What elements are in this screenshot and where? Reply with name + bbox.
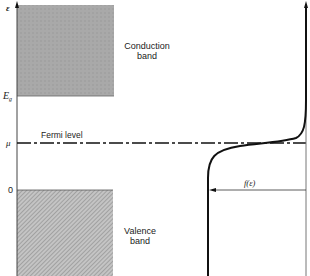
valence-band-label-line1: Valence xyxy=(124,226,156,236)
fermi-dirac-curve xyxy=(208,6,306,276)
fermi-level-label: Fermi level xyxy=(41,130,83,140)
distribution-label: f(ε) xyxy=(244,178,256,188)
chemical-potential-label: μ xyxy=(5,138,11,148)
distribution-arrowhead-icon xyxy=(209,188,216,192)
conduction-band-region xyxy=(17,5,114,96)
band-diagram: ε Eg μ 0 Conduction band Valence band Fe… xyxy=(0,0,310,276)
gap-energy-label: Eg xyxy=(2,90,12,102)
conduction-band-label-line1: Conduction xyxy=(124,41,170,51)
valence-band-label-line2: band xyxy=(130,236,150,246)
conduction-band-label-line2: band xyxy=(137,51,157,61)
energy-axis-label: ε xyxy=(6,3,10,13)
energy-axis-arrow-icon xyxy=(15,1,19,8)
zero-energy-label: 0 xyxy=(8,185,13,195)
valence-band-region xyxy=(17,190,113,276)
